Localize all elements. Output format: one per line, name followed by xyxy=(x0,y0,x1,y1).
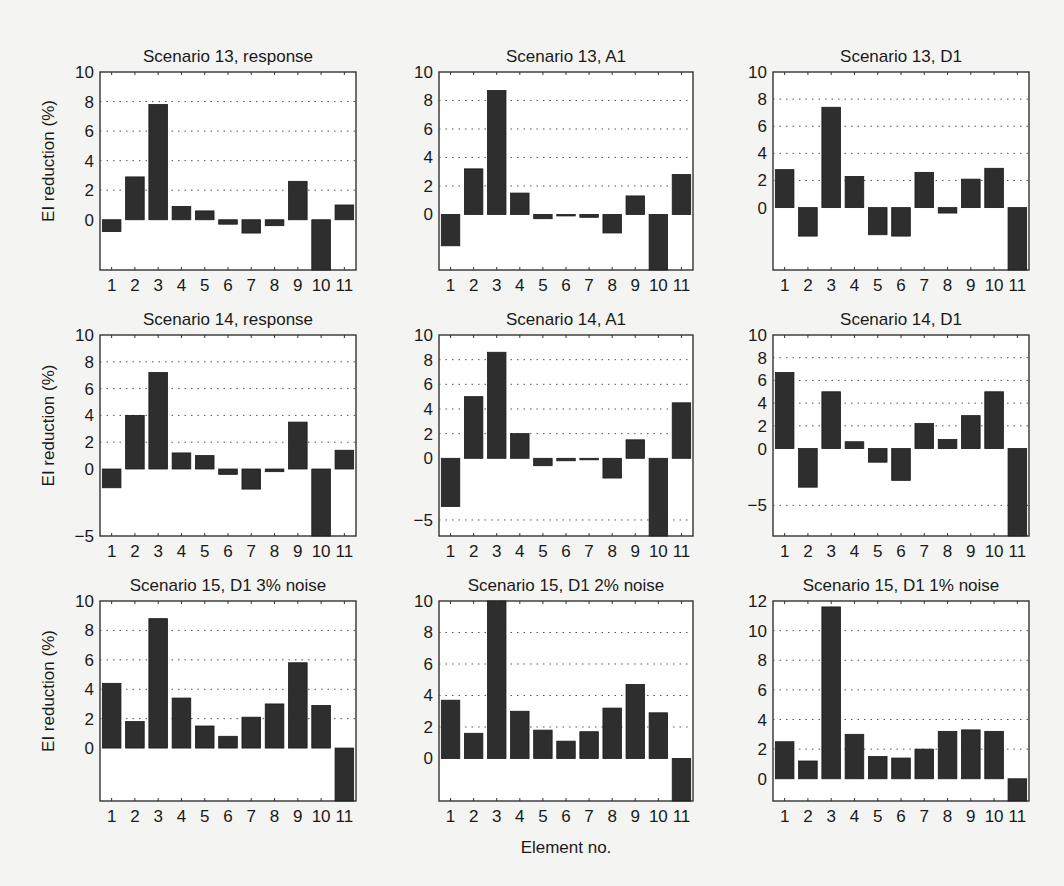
bar-element-2 xyxy=(799,449,818,488)
y-tick-label: −5 xyxy=(748,496,767,515)
x-tick-label: 4 xyxy=(850,542,859,561)
x-tick-label: 8 xyxy=(943,276,952,295)
subplot-4: −502468101234567891011Scenario 14, respo… xyxy=(39,310,356,561)
y-tick-label: 10 xyxy=(748,326,767,345)
x-tick-label: 9 xyxy=(966,542,975,561)
bar-element-11 xyxy=(335,205,354,220)
bar-element-3 xyxy=(149,373,168,469)
bar-element-10 xyxy=(985,168,1004,207)
x-tick-label: 6 xyxy=(223,276,232,295)
x-tick-label: 5 xyxy=(200,542,209,561)
bar-element-3 xyxy=(149,619,168,748)
x-tick-label: 5 xyxy=(538,276,547,295)
bar-element-9 xyxy=(962,179,981,207)
bar-element-6 xyxy=(557,741,575,758)
x-tick-label: 2 xyxy=(130,807,139,826)
y-tick-label: 4 xyxy=(424,686,433,705)
x-tick-label: 7 xyxy=(247,276,256,295)
bar-element-8 xyxy=(603,214,621,233)
bar-element-7 xyxy=(915,424,934,449)
bar-element-8 xyxy=(265,469,284,472)
figure: 02468101234567891011Scenario 13, respons… xyxy=(0,0,1064,886)
bar-element-10 xyxy=(312,705,331,748)
y-tick-label: 8 xyxy=(85,93,94,112)
x-tick-label: 9 xyxy=(631,276,640,295)
x-tick-label: 1 xyxy=(107,807,116,826)
x-tick-label: 1 xyxy=(780,542,789,561)
subplot-title: Scenario 15, D1 3% noise xyxy=(130,576,327,595)
bar-element-3 xyxy=(487,91,505,215)
x-tick-label: 3 xyxy=(153,276,162,295)
y-tick-label: 0 xyxy=(758,770,767,789)
x-tick-label: 10 xyxy=(649,542,668,561)
x-axis-label: Element no. xyxy=(521,838,612,857)
x-tick-label: 8 xyxy=(270,276,279,295)
bar-element-1 xyxy=(441,214,459,245)
bar-element-7 xyxy=(580,732,598,759)
x-tick-label: 2 xyxy=(469,807,478,826)
y-tick-label: 0 xyxy=(424,205,433,224)
bar-element-7 xyxy=(915,172,934,207)
bar-element-11 xyxy=(1008,208,1027,270)
bar-element-11 xyxy=(335,450,354,469)
x-tick-label: 7 xyxy=(920,276,929,295)
x-tick-label: 1 xyxy=(446,276,455,295)
subplot-title: Scenario 14, response xyxy=(143,310,313,329)
x-tick-label: 4 xyxy=(850,807,859,826)
bar-element-6 xyxy=(557,214,575,216)
x-tick-label: 4 xyxy=(177,542,186,561)
x-tick-label: 5 xyxy=(873,276,882,295)
bar-element-10 xyxy=(649,458,667,536)
x-tick-label: 8 xyxy=(607,276,616,295)
bar-element-9 xyxy=(289,422,308,469)
x-tick-label: 9 xyxy=(631,542,640,561)
bar-element-7 xyxy=(580,458,598,460)
x-tick-label: 9 xyxy=(293,542,302,561)
subplot-8: 02468101234567891011Scenario 15, D1 2% n… xyxy=(414,576,693,826)
x-tick-label: 11 xyxy=(673,276,691,295)
plot-area xyxy=(439,601,693,801)
subplot-title: Scenario 13, A1 xyxy=(506,47,626,66)
x-tick-label: 4 xyxy=(177,807,186,826)
y-tick-label: 6 xyxy=(758,371,767,390)
bar-element-2 xyxy=(464,169,482,215)
bar-element-11 xyxy=(672,758,690,801)
bar-element-8 xyxy=(603,458,621,478)
x-tick-label: 11 xyxy=(1009,542,1027,561)
y-tick-label: 2 xyxy=(758,740,767,759)
y-tick-label: 2 xyxy=(85,433,94,452)
x-tick-label: 3 xyxy=(153,807,162,826)
x-tick-label: 1 xyxy=(446,542,455,561)
bar-element-7 xyxy=(242,220,261,233)
bar-element-4 xyxy=(172,698,191,748)
plot-area xyxy=(100,601,356,801)
bar-element-5 xyxy=(195,456,214,469)
y-tick-label: 4 xyxy=(85,152,94,171)
x-tick-label: 9 xyxy=(293,276,302,295)
x-tick-label: 7 xyxy=(247,807,256,826)
bar-element-11 xyxy=(672,403,690,458)
y-tick-label: 6 xyxy=(85,651,94,670)
x-tick-label: 2 xyxy=(130,276,139,295)
x-tick-label: 4 xyxy=(515,276,524,295)
bar-element-8 xyxy=(265,220,284,226)
y-tick-label: 4 xyxy=(424,148,433,167)
x-tick-label: 5 xyxy=(873,807,882,826)
y-tick-label: 6 xyxy=(758,117,767,136)
bar-element-4 xyxy=(172,453,191,469)
subplot-2: 02468101234567891011Scenario 13, A1 xyxy=(414,47,693,295)
bar-element-3 xyxy=(487,352,505,458)
bar-element-2 xyxy=(799,208,818,236)
x-tick-label: 7 xyxy=(920,807,929,826)
x-tick-label: 10 xyxy=(985,807,1004,826)
y-tick-label: 10 xyxy=(414,592,433,611)
y-tick-label: 2 xyxy=(758,171,767,190)
x-tick-label: 9 xyxy=(966,276,975,295)
y-tick-label: −5 xyxy=(75,527,94,546)
bar-element-6 xyxy=(219,220,238,224)
y-tick-label: 4 xyxy=(85,680,94,699)
x-tick-label: 2 xyxy=(803,276,812,295)
x-tick-label: 10 xyxy=(649,276,668,295)
x-tick-label: 5 xyxy=(538,542,547,561)
x-tick-label: 11 xyxy=(673,807,691,826)
